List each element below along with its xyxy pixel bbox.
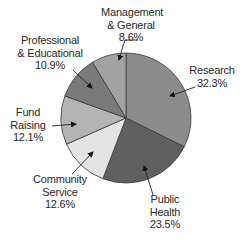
pie-slices xyxy=(61,53,191,183)
label-community-service: Community Service 12.6% xyxy=(30,173,90,211)
label-public-health: Public Health 23.5% xyxy=(145,193,185,231)
label-research: Research 32.3% xyxy=(186,64,238,89)
label-fund-raising: Fund Raising 12.1% xyxy=(6,106,50,144)
label-professional-educational: Professional & Educational 10.9% xyxy=(10,34,90,72)
label-management-general: Management & General 8.6% xyxy=(101,6,161,44)
